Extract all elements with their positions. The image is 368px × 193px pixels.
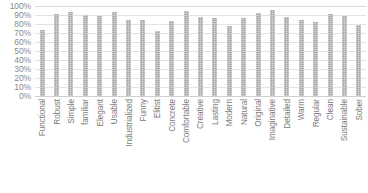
x-axis-tick-label: Elegant — [95, 99, 104, 126]
bar-slot — [93, 6, 107, 96]
bar — [126, 20, 131, 97]
bar-slot — [236, 6, 250, 96]
bar-chart: 100%90%80%70%60%50%40%30%20%10%0% Functi… — [0, 0, 368, 193]
x-axis-slot: Elitist — [150, 97, 164, 193]
x-axis-tick-label: Natural — [239, 99, 248, 125]
bar-slot — [308, 6, 322, 96]
x-axis-slot: Lasting — [208, 97, 222, 193]
x-axis-tick-label: Usable — [110, 99, 119, 124]
bar-slot — [337, 6, 351, 96]
x-axis-slot: Sober — [352, 97, 366, 193]
bar — [212, 18, 217, 96]
bar — [140, 20, 145, 97]
bar — [54, 14, 59, 96]
bar-slot — [179, 6, 193, 96]
bar — [169, 21, 174, 96]
x-axis-tick-label: Warm — [297, 99, 306, 120]
bar — [40, 30, 45, 96]
bar — [227, 26, 232, 96]
x-axis-slot: Functional — [35, 97, 49, 193]
x-axis-slot: Clean — [323, 97, 337, 193]
x-axis-tick-label: Regular — [311, 99, 320, 127]
bar — [313, 22, 318, 96]
bar-slot — [294, 6, 308, 96]
bar — [356, 25, 361, 96]
x-axis-tick-label: Industrialized — [124, 99, 133, 147]
x-axis-slot: Comfortable — [179, 97, 193, 193]
x-axis-tick-label: Simple — [66, 99, 75, 124]
bar-slot — [208, 6, 222, 96]
y-axis-tick-label: 0% — [19, 92, 31, 101]
bar-slot — [265, 6, 279, 96]
bar — [68, 12, 73, 96]
x-axis-tick-label: Clean — [326, 99, 335, 120]
x-axis-slot: Sustainable — [337, 97, 351, 193]
bar — [270, 10, 275, 96]
plot-area — [35, 6, 366, 96]
x-axis-tick-label: Concrete — [167, 99, 176, 132]
bar — [284, 17, 289, 96]
bar — [241, 18, 246, 96]
x-axis-tick-label: Sober — [354, 99, 363, 121]
bar-slot — [107, 6, 121, 96]
bar-slot — [49, 6, 63, 96]
bar-slot — [251, 6, 265, 96]
x-axis-slot: Creative — [193, 97, 207, 193]
x-axis-slot: Warm — [294, 97, 308, 193]
x-axis-tick-label: Functional — [38, 99, 47, 136]
x-axis-tick-label: Funny — [138, 99, 147, 122]
bar-slot — [280, 6, 294, 96]
x-axis-slot: Imaginative — [265, 97, 279, 193]
x-axis-tick-label: Imaginative — [268, 99, 277, 140]
y-axis: 100%90%80%70%60%50%40%30%20%10%0% — [0, 0, 33, 102]
bar-slot — [78, 6, 92, 96]
x-axis-slot: Modern — [222, 97, 236, 193]
bar — [328, 14, 333, 96]
x-axis-tick-label: Modern — [225, 99, 234, 126]
bar-slot — [193, 6, 207, 96]
x-axis-tick-label: familiar — [81, 99, 90, 125]
bar-slot — [165, 6, 179, 96]
x-axis-tick-label: Creative — [196, 99, 205, 129]
bar-slot — [64, 6, 78, 96]
bar — [83, 15, 88, 96]
x-axis-slot: Simple — [64, 97, 78, 193]
bar-slot — [150, 6, 164, 96]
bar-slot — [136, 6, 150, 96]
x-axis-slot: familiar — [78, 97, 92, 193]
bar — [256, 13, 261, 96]
bar — [198, 17, 203, 96]
bar — [155, 31, 160, 96]
x-axis-slot: Usable — [107, 97, 121, 193]
bar — [184, 11, 189, 97]
bar — [97, 16, 102, 96]
x-axis-slot: Original — [251, 97, 265, 193]
x-axis-slot: Natural — [236, 97, 250, 193]
bar-slot — [121, 6, 135, 96]
x-axis-slot: Concrete — [165, 97, 179, 193]
bar-slot — [323, 6, 337, 96]
x-axis-tick-label: Lasting — [210, 99, 219, 125]
x-axis-tick-label: Comfortable — [182, 99, 191, 143]
x-axis-slot: Regular — [308, 97, 322, 193]
x-axis-slot: Detailed — [280, 97, 294, 193]
x-axis-tick-label: Detailed — [282, 99, 291, 129]
x-axis-tick-label: Robust — [52, 99, 61, 125]
x-axis-slot: Industrialized — [121, 97, 135, 193]
x-axis-tick-label: Original — [254, 99, 263, 127]
bar-slot — [352, 6, 366, 96]
x-axis: FunctionalRobustSimplefamiliarElegantUsa… — [35, 97, 366, 193]
x-axis-slot: Funny — [136, 97, 150, 193]
bar — [112, 12, 117, 96]
bar — [299, 20, 304, 97]
x-axis-tick-label: Elitist — [153, 99, 162, 118]
bar-slot — [222, 6, 236, 96]
bar-series — [35, 6, 366, 96]
x-axis-tick-label: Sustainable — [340, 99, 349, 141]
bar — [342, 16, 347, 96]
x-axis-slot: Robust — [49, 97, 63, 193]
x-axis-slot: Elegant — [93, 97, 107, 193]
bar-slot — [35, 6, 49, 96]
